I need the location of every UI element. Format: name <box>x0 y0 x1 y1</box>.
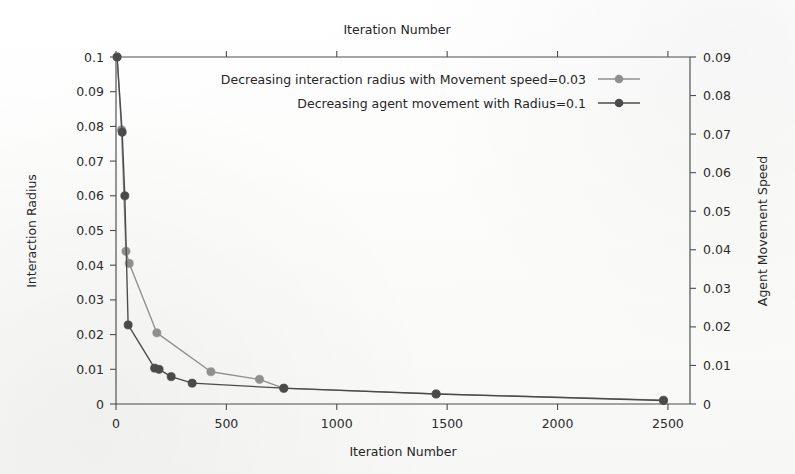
x-tick-label: 500 <box>214 416 238 431</box>
x-tick-label: 2500 <box>652 416 684 431</box>
y-right-tick-label: 0.05 <box>703 204 731 219</box>
y-left-tick-label: 0.07 <box>76 154 104 169</box>
y-right-tick-label: 0.03 <box>703 281 731 296</box>
chart-top-title: Iteration Number <box>343 22 451 37</box>
series-1-data-point <box>155 365 163 373</box>
series-1-data-point <box>118 128 126 136</box>
y-left-tick-label: 0.04 <box>76 258 104 273</box>
y-left-tick-label: 0.08 <box>76 119 104 134</box>
series-1-data-point <box>167 373 175 381</box>
x-tick-label: 1000 <box>321 416 353 431</box>
y-left-tick-label: 0.1 <box>84 50 104 65</box>
legend-label-0: Decreasing interaction radius with Movem… <box>221 72 586 87</box>
legend-circle-marker-0 <box>615 75 624 84</box>
y-left-tick-label: 0.02 <box>76 327 104 342</box>
y-right-tick-label: 0.09 <box>703 50 731 65</box>
y-left-tick-label: 0.09 <box>76 84 104 99</box>
y-axis-right-label: Agent Movement Speed <box>755 156 770 306</box>
x-axis-label: Iteration Number <box>349 444 457 459</box>
y-right-tick-label: 0 <box>703 397 711 412</box>
y-axis-right-ticks: 00.010.020.030.040.050.060.070.080.09 <box>690 50 731 412</box>
series-0-data-point <box>207 368 215 376</box>
y-axis-left-ticks: 00.010.020.030.040.050.060.070.080.090.1 <box>76 50 116 412</box>
x-tick-label: 1500 <box>431 416 463 431</box>
y-right-tick-label: 0.07 <box>703 127 731 142</box>
y-axis-left-label: Interaction Radius <box>24 174 39 288</box>
series-1-data-point <box>124 321 132 329</box>
series-1-data-point <box>659 396 667 404</box>
y-left-tick-label: 0.03 <box>76 292 104 307</box>
x-tick-label: 2000 <box>542 416 574 431</box>
y-left-tick-label: 0.06 <box>76 188 104 203</box>
y-right-tick-label: 0.08 <box>703 88 731 103</box>
series-0-data-point <box>255 375 263 383</box>
y-right-tick-label: 0.06 <box>703 165 731 180</box>
chart-canvas: Iteration Number 05001000150020002500 00… <box>0 0 795 474</box>
chart-figure: Iteration Number 05001000150020002500 00… <box>0 0 795 474</box>
series-1-data-point <box>121 192 129 200</box>
chart-legend: Decreasing interaction radius with Movem… <box>221 72 640 111</box>
y-left-tick-label: 0 <box>96 397 104 412</box>
y-left-tick-label: 0.05 <box>76 223 104 238</box>
y-right-tick-label: 0.02 <box>703 319 731 334</box>
series-1-data-point <box>188 379 196 387</box>
series-0-data-point <box>153 329 161 337</box>
x-tick-label: 0 <box>112 416 120 431</box>
series-1-data-point <box>432 390 440 398</box>
legend-label-1: Decreasing agent movement with Radius=0.… <box>297 96 586 111</box>
legend-circle-marker-1 <box>615 99 624 108</box>
y-left-tick-label: 0.01 <box>76 362 104 377</box>
y-right-tick-label: 0.04 <box>703 242 731 257</box>
y-right-tick-label: 0.01 <box>703 358 731 373</box>
series-1-data-point <box>280 384 288 392</box>
series-1-data-point <box>113 53 121 61</box>
